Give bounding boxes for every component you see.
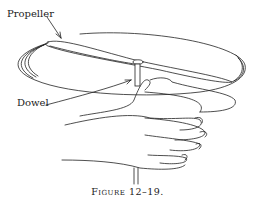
caption-text: Figure 12–19. <box>91 186 164 197</box>
propeller-label: Propeller <box>7 8 54 19</box>
figure-caption: Figure 12–19. <box>0 186 255 197</box>
dowel-label: Dowel <box>17 97 49 108</box>
figure: Propeller Dowel Figure 12–19. <box>0 0 255 203</box>
